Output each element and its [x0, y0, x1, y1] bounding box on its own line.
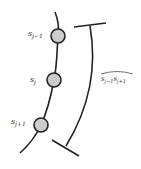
node-s-j [47, 73, 61, 87]
node-s-j-plus-1 [34, 118, 48, 132]
label-s-j-plus-1: sj+1 [11, 117, 26, 128]
arc-label-overarc [101, 72, 133, 75]
label-s-j: sj [30, 75, 36, 86]
label-s-j-minus-1: sj−1 [28, 29, 43, 40]
node-s-j-minus-1 [51, 29, 65, 43]
arc-label: sj−1sj+1 [101, 75, 126, 85]
curve-arc-length-diagram: sj−1 sj sj+1 sj−1sj+1 [0, 0, 141, 169]
bracket-bottom-bar [52, 140, 79, 156]
bracket-arc [66, 26, 93, 146]
